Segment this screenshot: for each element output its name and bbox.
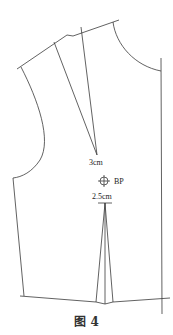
pattern-diagram: BP 3cm 2.5cm: [0, 0, 173, 335]
bust-point-label: BP: [114, 177, 124, 186]
hem-line: [20, 296, 170, 304]
bust-point-icon: [98, 175, 110, 187]
waist-dart-leg-1: [96, 203, 105, 302]
waist-dart-leg-2: [105, 203, 113, 302]
center-front-line: [161, 58, 162, 314]
figure-caption: 图 4: [0, 312, 173, 329]
waist-dart-label: 2.5cm: [92, 192, 113, 201]
shoulder-dart-label: 3cm: [89, 158, 104, 167]
side-seam: [13, 178, 24, 296]
shoulder-dart-leg-2: [81, 27, 97, 155]
armhole-curve: [13, 67, 44, 178]
neckline-curve: [113, 22, 161, 71]
shoulder-dart-leg-1: [54, 42, 97, 155]
shoulder-line: [17, 20, 119, 69]
